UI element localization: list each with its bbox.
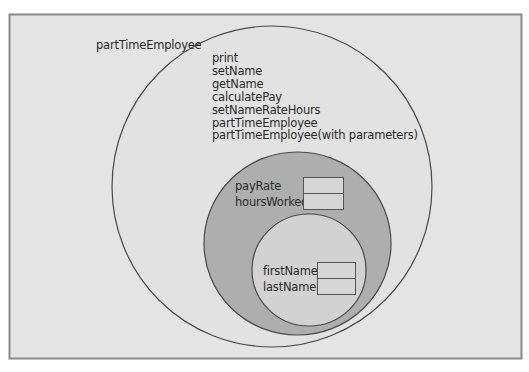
field-label-pay-rate: payRate [235,180,281,193]
method-item: print [212,52,418,65]
field-label-first-name: firstName [263,265,318,278]
field-box-hours-worked [303,193,344,210]
outer-class-label: partTimeEmployee [96,39,201,52]
method-list: print setName getName calculatePay setNa… [212,52,418,142]
method-item: getName [212,78,418,91]
method-item: setName [212,65,418,78]
field-box-last-name [317,278,356,295]
field-label-last-name: lastName [263,281,316,294]
field-label-hours-worked: hoursWorked [235,196,308,209]
method-item: setNameRateHours [212,104,418,117]
method-item: calculatePay [212,91,418,104]
method-item: partTimeEmployee(with parameters) [212,129,418,142]
field-box-pay-rate [303,177,344,194]
field-box-first-name [317,262,356,279]
